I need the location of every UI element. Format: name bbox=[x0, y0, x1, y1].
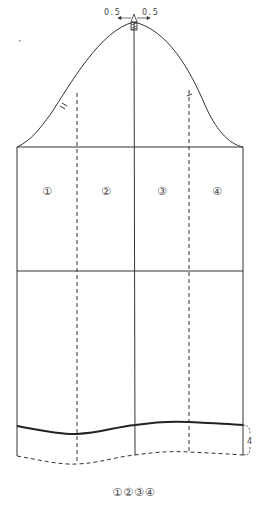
offset-right-label: 0.5 bbox=[142, 8, 159, 17]
caption: ①②③④ bbox=[112, 486, 155, 499]
panel-label-3: ③ bbox=[157, 185, 167, 198]
hem-line bbox=[17, 422, 243, 435]
panel-label-4: ④ bbox=[212, 185, 222, 198]
hem-extension-label: 4 bbox=[247, 437, 252, 446]
double-notch-mark bbox=[60, 103, 67, 109]
sleeve-pattern-diagram: 0.5 0.5 ① ② ③ ④ 4 ①②③④ bbox=[0, 0, 268, 520]
panel-label-1: ① bbox=[42, 185, 52, 198]
offset-left-label: 0.5 bbox=[104, 8, 121, 17]
center-line bbox=[134, 22, 135, 455]
single-notch-mark bbox=[187, 94, 192, 96]
stray-mark bbox=[19, 40, 21, 42]
panel-label-2: ② bbox=[101, 185, 111, 198]
extended-hem-line bbox=[17, 452, 243, 465]
sleeve-cap-curve bbox=[17, 22, 243, 147]
